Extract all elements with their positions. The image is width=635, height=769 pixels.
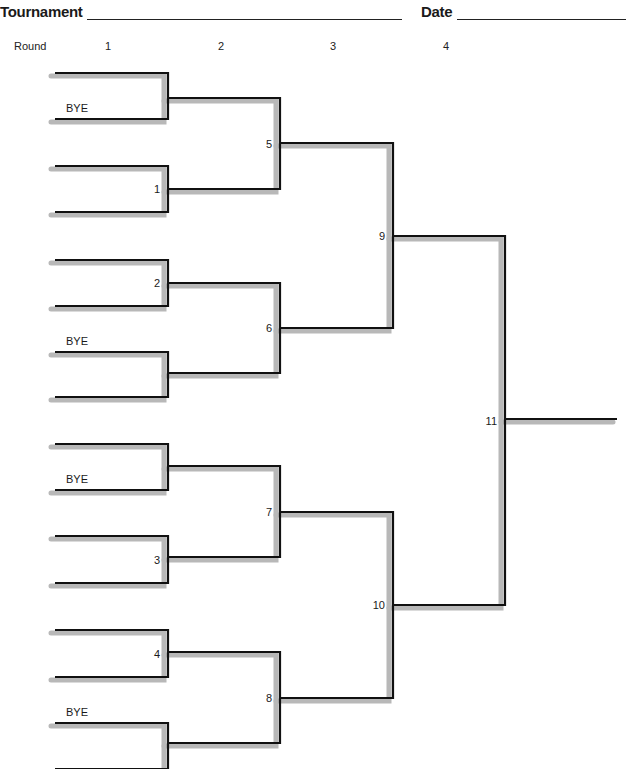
match-number-8: 8 bbox=[266, 692, 272, 704]
round1-match-4 bbox=[55, 352, 168, 397]
round2-match-1 bbox=[168, 98, 280, 189]
tournament-bracket: BYE12BYEBYE34BYE567891011 bbox=[0, 0, 635, 769]
round2-match-2 bbox=[168, 283, 280, 373]
round2-match-4 bbox=[168, 652, 280, 743]
bye-label: BYE bbox=[66, 473, 88, 485]
margin-copyright-strip bbox=[625, 260, 635, 720]
match-number-1: 1 bbox=[154, 183, 160, 195]
round1-match-2 bbox=[55, 166, 168, 212]
round1-match-7 bbox=[55, 630, 168, 677]
round1-match-6 bbox=[55, 536, 168, 583]
match-number-6: 6 bbox=[266, 322, 272, 334]
match-number-9: 9 bbox=[379, 230, 385, 242]
match-number-3: 3 bbox=[154, 554, 160, 566]
match-number-10: 10 bbox=[373, 599, 385, 611]
round3-match-1 bbox=[280, 143, 393, 328]
match-number-4: 4 bbox=[154, 648, 160, 660]
match-number-7: 7 bbox=[266, 506, 272, 518]
match-number-2: 2 bbox=[154, 277, 160, 289]
round1-match-3 bbox=[55, 260, 168, 306]
round2-match-3 bbox=[168, 466, 280, 557]
round1-match-8 bbox=[55, 723, 168, 769]
bye-label: BYE bbox=[66, 706, 88, 718]
match-number-11: 11 bbox=[486, 415, 497, 427]
match-number-5: 5 bbox=[266, 138, 272, 150]
bye-label: BYE bbox=[66, 335, 88, 347]
bye-label: BYE bbox=[66, 102, 88, 114]
